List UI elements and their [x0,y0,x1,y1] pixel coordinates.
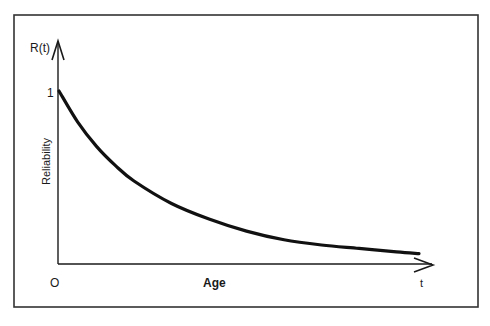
x-axis-arrow-icon [414,258,433,272]
y-axis-label: Reliability [40,137,52,185]
x-tick-origin: O [50,276,59,290]
x-axis-symbol: t [420,277,423,289]
reliability-chart: R(t) 1 O Age t Reliability [0,0,490,326]
x-axis-label: Age [203,276,226,290]
y-axis-symbol: R(t) [30,41,50,55]
chart-frame [14,15,478,307]
y-tick-one: 1 [47,86,54,100]
reliability-curve [59,91,419,254]
